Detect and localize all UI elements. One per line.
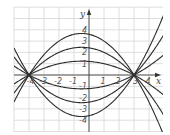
y-tick-label: -2: [79, 94, 87, 103]
parabola-family-chart: -4-3-2-112344321-1-2-3-4 x y: [0, 0, 170, 135]
x-tick-label: 2: [115, 77, 120, 86]
x-tick-label: -4: [27, 77, 35, 86]
x-tick-label: 1: [100, 77, 105, 86]
y-tick-label: -1: [79, 82, 87, 91]
y-tick-label: -3: [79, 105, 87, 114]
x-tick-label: -3: [39, 77, 47, 86]
y-axis-label: y: [79, 9, 86, 19]
x-tick-label: -2: [54, 77, 62, 86]
y-tick-label: 3: [82, 37, 87, 46]
y-axis-arrow-icon: [87, 9, 91, 15]
x-tick-label: 3: [133, 77, 138, 86]
y-tick-label: 1: [82, 60, 87, 69]
x-tick-label: -1: [69, 77, 77, 86]
y-tick-label: 2: [82, 48, 87, 57]
y-tick-label: -4: [79, 116, 87, 125]
y-tick-label: 4: [82, 26, 87, 35]
axes: [14, 9, 161, 132]
x-axis-label: x: [156, 76, 161, 86]
grid-lines: [14, 7, 163, 132]
x-tick-label: 4: [145, 77, 150, 86]
